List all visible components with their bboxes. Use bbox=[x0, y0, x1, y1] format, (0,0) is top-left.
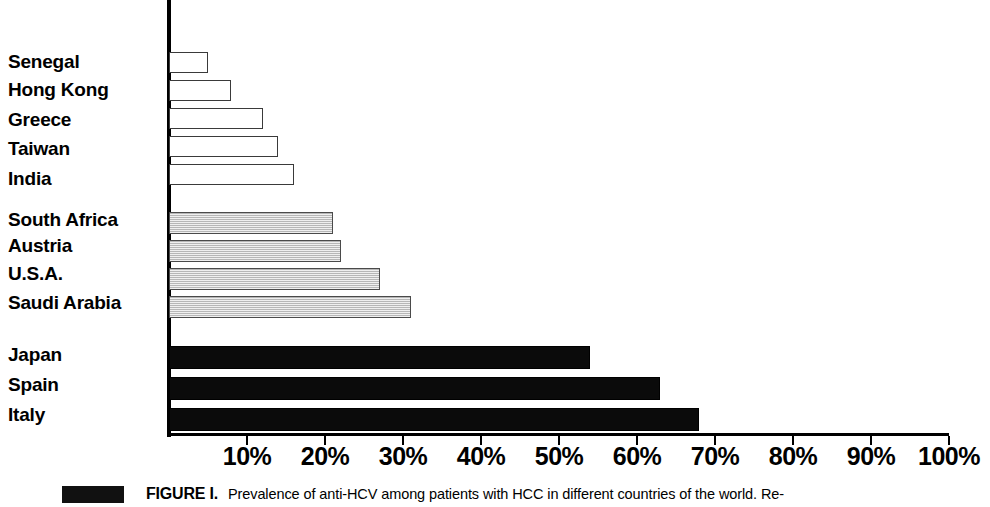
x-tick-label-80: 80% bbox=[769, 444, 818, 469]
caption-body-text: Prevalence of anti-HCV among patients wi… bbox=[228, 486, 784, 502]
bar-senegal bbox=[169, 52, 208, 73]
bar-south-africa bbox=[169, 212, 333, 234]
caption-figure-label: FIGURE I. bbox=[146, 485, 218, 502]
bar-u-s-a bbox=[169, 268, 380, 290]
category-label-u-s-a: U.S.A. bbox=[8, 264, 63, 283]
x-tick-label-10: 10% bbox=[223, 444, 272, 469]
bar-hong-kong bbox=[169, 80, 231, 101]
bar-italy bbox=[169, 408, 699, 431]
x-tick-label-100: 100% bbox=[918, 444, 980, 469]
category-label-spain: Spain bbox=[8, 375, 59, 394]
caption-marker-swatch bbox=[62, 486, 124, 503]
figure-container: SenegalHong KongGreeceTaiwanIndiaSouth A… bbox=[0, 0, 990, 507]
category-label-senegal: Senegal bbox=[8, 52, 79, 71]
x-tick-label-70: 70% bbox=[691, 444, 740, 469]
category-label-japan: Japan bbox=[8, 345, 62, 364]
bar-japan bbox=[169, 346, 590, 369]
x-tick-label-50: 50% bbox=[535, 444, 584, 469]
figure-caption: FIGURE I.Prevalence of anti-HCV among pa… bbox=[0, 484, 990, 507]
category-label-south-africa: South Africa bbox=[8, 210, 118, 229]
bar-chart-plot-area: SenegalHong KongGreeceTaiwanIndiaSouth A… bbox=[0, 0, 990, 470]
x-tick-label-90: 90% bbox=[847, 444, 896, 469]
category-label-greece: Greece bbox=[8, 110, 71, 129]
bar-greece bbox=[169, 108, 263, 129]
category-label-hong-kong: Hong Kong bbox=[8, 80, 109, 99]
category-label-taiwan: Taiwan bbox=[8, 139, 70, 158]
category-label-india: India bbox=[8, 169, 51, 188]
caption-text: FIGURE I.Prevalence of anti-HCV among pa… bbox=[146, 484, 784, 504]
bar-austria bbox=[169, 240, 341, 262]
category-label-austria: Austria bbox=[8, 236, 72, 255]
bar-spain bbox=[169, 377, 660, 400]
category-label-saudi-arabia: Saudi Arabia bbox=[8, 293, 121, 312]
bar-taiwan bbox=[169, 136, 278, 157]
bar-saudi-arabia bbox=[169, 296, 411, 318]
category-label-italy: Italy bbox=[8, 405, 45, 424]
x-tick-label-30: 30% bbox=[379, 444, 428, 469]
x-tick-label-20: 20% bbox=[301, 444, 350, 469]
bar-india bbox=[169, 164, 294, 185]
x-tick-label-60: 60% bbox=[613, 444, 662, 469]
x-tick-label-40: 40% bbox=[457, 444, 506, 469]
